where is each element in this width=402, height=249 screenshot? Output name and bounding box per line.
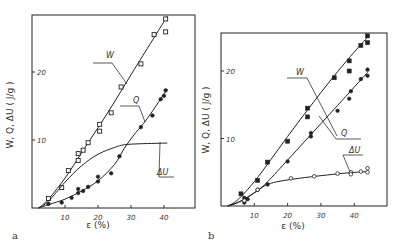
- data-point: [96, 175, 100, 179]
- panel-label: a: [12, 230, 18, 241]
- data-point: [309, 135, 313, 139]
- data-point: [366, 34, 370, 38]
- x-tick-label: 30: [316, 212, 325, 220]
- data-point: [86, 185, 90, 189]
- data-point: [164, 17, 168, 21]
- data-point: [366, 74, 370, 78]
- data-point: [336, 109, 340, 113]
- data-point: [109, 111, 113, 115]
- data-point: [66, 169, 70, 173]
- y-tick-label: 20: [37, 69, 46, 77]
- data-point: [266, 160, 270, 164]
- data-point: [309, 131, 313, 135]
- series-W: W: [39, 16, 168, 208]
- data-point: [349, 172, 353, 176]
- series-label: W: [106, 51, 115, 60]
- data-point: [76, 191, 80, 195]
- data-point: [81, 148, 85, 152]
- data-point: [332, 76, 336, 80]
- data-point: [159, 97, 163, 101]
- data-point: [98, 129, 102, 133]
- data-point: [286, 139, 290, 143]
- data-point: [347, 97, 351, 101]
- plot-frame: [221, 33, 387, 206]
- y-tick-label: 10: [37, 137, 46, 145]
- series-curve: [39, 143, 168, 208]
- data-point: [312, 175, 316, 179]
- series-label: ΔU: [348, 146, 360, 155]
- x-tick-label: 10: [61, 214, 70, 222]
- data-point: [96, 180, 100, 184]
- data-point: [306, 115, 310, 119]
- data-point: [347, 69, 351, 73]
- data-point: [347, 59, 351, 63]
- data-point: [359, 43, 363, 47]
- data-point: [86, 141, 90, 145]
- label-leader-line: [120, 106, 145, 122]
- series-curve: [39, 16, 168, 208]
- data-point: [139, 125, 143, 129]
- series-label: Q: [341, 129, 347, 138]
- y-axis-label: W, Q, ΔU ( J/g ): [201, 86, 211, 153]
- data-point: [98, 122, 102, 126]
- label-leader-line: [343, 155, 363, 172]
- data-point: [164, 89, 168, 93]
- series-delta-U: ΔU: [39, 142, 174, 208]
- x-axis-label: ε (%): [86, 220, 109, 230]
- data-point: [76, 187, 80, 191]
- data-point: [81, 189, 85, 193]
- panel-a: 102030401020ε (%)W, Q, ΔU ( J/g )aWQΔU: [5, 15, 195, 241]
- data-point: [366, 68, 370, 72]
- series-label: Q: [133, 96, 139, 105]
- series-delta-U: ΔU: [228, 146, 370, 206]
- data-point: [139, 62, 143, 66]
- x-tick-label: 40: [350, 212, 359, 220]
- x-tick-label: 30: [127, 214, 136, 222]
- data-point: [366, 41, 370, 45]
- data-point: [118, 155, 122, 159]
- series-label: ΔU: [156, 168, 168, 177]
- series-Q: Q: [228, 68, 370, 206]
- data-point: [152, 33, 156, 37]
- y-tick-label: 20: [226, 68, 235, 76]
- series-W: W: [228, 34, 370, 206]
- data-point: [164, 30, 168, 34]
- data-point: [366, 166, 370, 170]
- data-point: [60, 201, 64, 205]
- data-point: [359, 170, 363, 174]
- data-point: [289, 177, 293, 181]
- data-point: [256, 178, 260, 182]
- y-tick-label: 10: [226, 136, 235, 144]
- data-point: [239, 192, 243, 196]
- data-point: [349, 89, 353, 93]
- data-point: [76, 158, 80, 162]
- figure: 102030401020ε (%)W, Q, ΔU ( J/g )aWQΔU10…: [0, 0, 402, 249]
- series-curve: [228, 37, 368, 206]
- label-leader-line: [93, 63, 127, 84]
- panel-label: b: [208, 230, 214, 241]
- panel-b: 102030401020ε (%)W, Q, ΔU ( J/g )bWQΔU: [201, 33, 387, 241]
- data-point: [256, 188, 260, 192]
- x-axis-label: ε (%): [281, 221, 304, 231]
- x-tick-label: 40: [160, 214, 169, 222]
- data-point: [76, 152, 80, 156]
- series-label: W: [296, 68, 305, 77]
- data-point: [366, 170, 370, 174]
- data-point: [306, 106, 310, 110]
- data-point: [336, 172, 340, 176]
- data-point: [359, 77, 363, 81]
- data-point: [243, 199, 247, 203]
- data-point: [119, 85, 123, 89]
- data-point: [162, 94, 166, 98]
- y-axis-label: W, Q, ΔU ( J/g ): [5, 81, 15, 148]
- x-tick-label: 20: [283, 212, 292, 220]
- data-point: [151, 114, 155, 118]
- x-tick-label: 10: [250, 212, 259, 220]
- data-point: [286, 160, 290, 164]
- data-point: [70, 196, 74, 200]
- data-point: [109, 172, 113, 176]
